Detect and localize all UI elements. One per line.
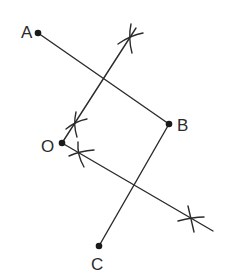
point-A — [35, 30, 42, 37]
bisector-line-1 — [62, 28, 136, 143]
point-B — [166, 121, 173, 128]
label-B: B — [177, 116, 188, 135]
label-A: A — [21, 23, 33, 42]
label-C: C — [91, 255, 103, 274]
arc-mark-1 — [118, 24, 143, 53]
construction-diagram: A B O C — [0, 0, 228, 280]
point-O — [59, 140, 66, 147]
arc-mark-2 — [66, 112, 87, 137]
label-O: O — [41, 137, 54, 156]
arc-mark-4 — [178, 206, 204, 232]
point-C — [96, 243, 103, 250]
